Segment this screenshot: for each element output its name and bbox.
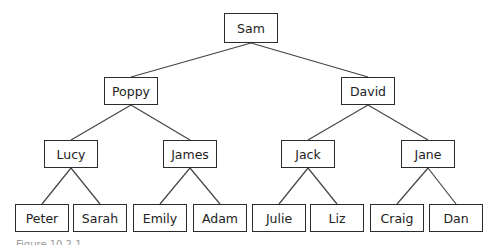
node-craig: Craig (370, 204, 424, 232)
node-label: Sam (237, 21, 265, 36)
node-label: Liz (329, 211, 346, 226)
node-julie: Julie (252, 204, 306, 232)
edge-jack-liz (308, 168, 337, 204)
edge-jack-julie (279, 168, 308, 204)
edge-poppy-james (131, 105, 190, 140)
node-lucy: Lucy (44, 140, 98, 168)
node-adam: Adam (193, 204, 247, 232)
node-label: James (171, 147, 209, 162)
node-label: Peter (26, 211, 59, 226)
edge-jane-dan (428, 168, 456, 204)
node-poppy: Poppy (104, 77, 158, 105)
node-label: Jane (415, 147, 442, 162)
node-james: James (163, 140, 217, 168)
node-label: Julie (266, 211, 292, 226)
edge-james-adam (190, 168, 220, 204)
node-jack: Jack (281, 140, 335, 168)
node-label: Emily (143, 211, 177, 226)
edge-lucy-sarah (71, 168, 100, 204)
node-david: David (341, 77, 395, 105)
node-emily: Emily (133, 204, 187, 232)
node-label: Sarah (82, 211, 118, 226)
node-label: Poppy (112, 84, 150, 99)
figure-caption: Figure 10.2.1 (16, 239, 82, 245)
node-label: Adam (202, 211, 238, 226)
edge-lucy-peter (42, 168, 71, 204)
edge-poppy-lucy (71, 105, 131, 140)
node-label: Jack (295, 147, 320, 162)
edge-sam-david (251, 43, 368, 77)
edge-james-emily (160, 168, 190, 204)
node-liz: Liz (310, 204, 364, 232)
node-label: Lucy (57, 147, 86, 162)
node-sam: Sam (224, 13, 278, 43)
node-peter: Peter (15, 204, 69, 232)
node-jane: Jane (401, 140, 455, 168)
node-label: David (350, 84, 386, 99)
node-sarah: Sarah (73, 204, 127, 232)
tree-diagram: Sam Poppy David Lucy James Jack Jane Pet… (0, 0, 494, 245)
edge-david-jane (368, 105, 428, 140)
node-label: Dan (443, 211, 468, 226)
edge-sam-poppy (131, 43, 251, 77)
edge-jane-craig (397, 168, 428, 204)
node-label: Craig (381, 211, 414, 226)
node-dan: Dan (429, 204, 483, 232)
edge-david-jack (308, 105, 368, 140)
